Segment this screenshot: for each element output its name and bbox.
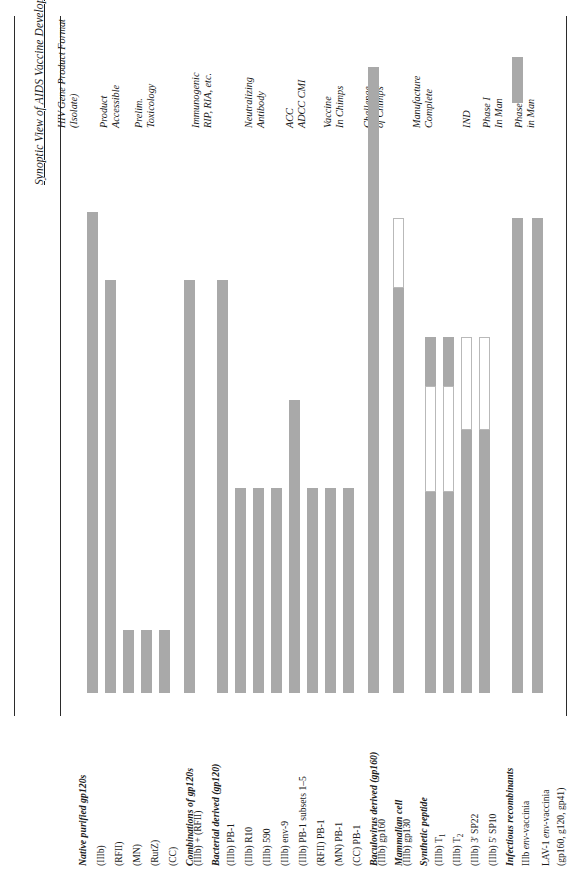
row-item-label-14: (RFII) PB-1 [316, 819, 326, 866]
bar-5-segment-0 [184, 280, 195, 693]
table-rule-right [566, 16, 567, 716]
bar-0 [87, 212, 98, 693]
bar-16-segment-2 [425, 492, 436, 693]
column-header-product-line1: Product [98, 96, 110, 128]
bar-15-segment-0 [393, 218, 404, 288]
bar-15-segment-1 [393, 288, 404, 693]
row-item-label-1: (IIIb) [96, 845, 106, 866]
row-item-label-9: (IIIb) PB-1 [226, 823, 236, 866]
bar-17 [443, 337, 454, 693]
bar-2 [123, 630, 134, 693]
row-item-label-12: (IIIb) env-9 [280, 821, 290, 866]
bar-8-segment-0 [253, 488, 264, 693]
bar-16-segment-0 [425, 337, 436, 386]
row-item-label-4: (RutZ) [150, 840, 160, 866]
row-item-label-23: (IIIb) T2 [452, 834, 466, 866]
column-header-ind-line2: IND [461, 110, 473, 128]
row-item-label-29: (gp160, g120, gp41) [556, 788, 566, 866]
bar-5 [184, 280, 195, 693]
row-group-label-26: Infectious recombinants [505, 768, 515, 866]
row-item-label-3: (MN) [132, 844, 142, 866]
row-label-italic-27: env [520, 836, 531, 849]
bar-11-segment-0 [307, 488, 318, 693]
bar-9 [271, 488, 282, 693]
row-item-label-7: (IIIb) + (RFII) [193, 811, 203, 867]
column-header-adcc-line1: ACC [284, 108, 296, 128]
column-header-format-line2: (Isolate) [68, 93, 80, 128]
column-header-phase1-line2: In Man [493, 98, 505, 128]
row-item-label-10: (IIIb) R10 [244, 827, 254, 866]
row-item-label-5: (CC) [168, 847, 178, 866]
bar-17-segment-1 [443, 386, 454, 492]
bar-6-segment-0 [217, 280, 228, 693]
bar-14-segment-0 [368, 67, 379, 693]
row-item-label-18: (IIIb) gp160 [377, 819, 387, 866]
row-item-label-20: (IIIb) gp130 [402, 819, 412, 866]
bar-20-segment-1 [512, 218, 523, 693]
row-label-subscript-23: 2 [457, 834, 465, 838]
bar-10-segment-0 [289, 400, 300, 693]
row-item-label-27: IIIb env-vaccinia [521, 801, 531, 866]
bar-9-segment-0 [271, 488, 282, 693]
bar-1 [105, 280, 116, 693]
column-header-phase1-line1: Phase I [481, 97, 493, 128]
column-header-adcc-line2: ADCC CMI [296, 80, 308, 128]
bar-14 [368, 67, 379, 693]
bar-4 [159, 630, 170, 693]
page-title: Synoptic View of AIDS Vaccine Developmen… [33, 0, 45, 185]
column-header-product-line2: Accessible [110, 85, 122, 128]
synoptic-chart-sheet: Synoptic View of AIDS Vaccine Developmen… [0, 0, 577, 871]
column-header-tox-line2: Toxicology [145, 84, 157, 128]
column-header-format-line1: HIV Gene Product Format [56, 19, 68, 128]
bar-13 [343, 488, 354, 693]
row-item-label-28: LAV-1 env-vaccinia [541, 790, 551, 866]
bar-13-segment-0 [343, 488, 354, 693]
row-item-label-22: (IIIb) T1 [434, 834, 448, 866]
bar-19-segment-0 [479, 337, 490, 430]
column-header-tox-line1: Prelim. [133, 98, 145, 128]
row-item-label-24: (IIIb) 3' SP22 [470, 814, 480, 866]
column-header-manufacture-line2: Complete [423, 89, 435, 128]
bar-20-segment-0 [512, 57, 523, 103]
bar-21-segment-0 [532, 218, 543, 693]
bar-21 [532, 218, 543, 693]
column-header-phase2-line2: in Man [525, 99, 537, 128]
row-item-label-15: (MN) PB-1 [334, 822, 344, 866]
bar-18-segment-0 [461, 337, 472, 430]
bar-1-segment-0 [105, 280, 116, 693]
bar-7 [235, 488, 246, 693]
bar-6 [217, 280, 228, 693]
row-label-italic-28: env [540, 825, 551, 838]
row-item-label-2: (RFII) [114, 841, 124, 866]
bar-15 [393, 218, 404, 693]
column-header-chimps-line2: In Chimps [334, 86, 346, 128]
row-group-label-0: Native purified gp120s [78, 775, 88, 866]
bar-11 [307, 488, 318, 693]
bar-16-segment-1 [425, 386, 436, 492]
bar-7-segment-0 [235, 488, 246, 693]
bar-3-segment-0 [141, 630, 152, 693]
column-header-neutralizing-line1: Neutralizing [243, 77, 255, 128]
bar-10 [289, 400, 300, 693]
bar-18-segment-1 [461, 430, 472, 693]
bar-12-segment-0 [325, 488, 336, 693]
row-item-label-16: (CC) PB-1 [352, 825, 362, 866]
bar-20 [512, 57, 523, 693]
bar-16 [425, 337, 436, 693]
column-header-immunogenic-line1: Immunogenic [190, 73, 202, 128]
bar-8 [253, 488, 264, 693]
row-item-label-11: (IIIb) 590 [262, 828, 272, 866]
bar-17-segment-0 [443, 337, 454, 386]
row-group-label-21: Synthetic peptide [419, 797, 429, 866]
bar-2-segment-0 [123, 630, 134, 693]
bar-3 [141, 630, 152, 693]
row-item-label-13: (IIIb) PB-1 subsets 1–5 [298, 776, 308, 866]
column-header-immunogenic-line2: RIP, RIA, etc. [202, 73, 214, 128]
bar-19 [479, 337, 490, 693]
bar-0-segment-0 [87, 212, 98, 693]
table-rule-left [14, 16, 15, 716]
bar-12 [325, 488, 336, 693]
column-header-neutralizing-line2: Antibody [255, 91, 267, 128]
row-label-subscript-22: 1 [439, 834, 447, 838]
bar-18 [461, 337, 472, 693]
